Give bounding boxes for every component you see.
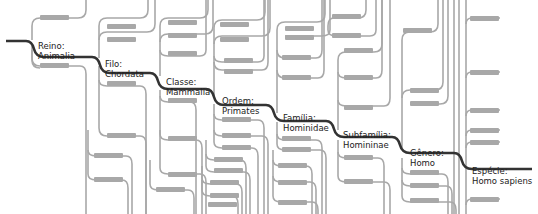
node-rank: Gênero:: [410, 148, 444, 158]
placeholder-label: [344, 179, 373, 184]
placeholder-label: [285, 35, 314, 40]
node-rank: Classe:: [166, 77, 210, 87]
placeholder-label: [168, 51, 197, 56]
node-subfamilia: Subfamília: Homininae: [343, 130, 391, 150]
placeholder-label: [470, 197, 499, 202]
placeholder-label: [282, 136, 311, 141]
node-taxon: Homo sapiens: [472, 176, 532, 186]
placeholder-label: [344, 48, 373, 53]
placeholder-label: [278, 200, 307, 205]
node-taxon: Animalia: [38, 51, 75, 61]
node-rank: Filo:: [105, 59, 144, 69]
placeholder-label: [168, 20, 197, 25]
main-path-line: [6, 41, 532, 169]
placeholder-label: [168, 33, 197, 38]
placeholder-label: [40, 63, 69, 68]
placeholder-label: [344, 75, 373, 80]
placeholder-label: [214, 168, 243, 173]
node-familia: Família: Hominidae: [283, 113, 329, 133]
node-filo: Filo: Chordata: [105, 59, 144, 79]
node-rank: Reino:: [38, 41, 75, 51]
node-taxon: Mammalia: [166, 87, 210, 97]
node-ordem: Ordem: Primates: [222, 96, 259, 116]
node-rank: Ordem:: [222, 96, 259, 106]
placeholder-label: [107, 37, 136, 42]
placeholder-label: [107, 24, 136, 29]
node-taxon: Homo: [410, 158, 444, 168]
node-reino: Reino: Animalia: [38, 41, 75, 61]
placeholder-label: [332, 14, 361, 19]
placeholder-label: [208, 202, 237, 207]
placeholder-label: [344, 105, 373, 110]
placeholder-label: [107, 133, 136, 138]
placeholder-label: [220, 37, 249, 42]
placeholder-label: [222, 133, 251, 138]
placeholder-label: [282, 147, 311, 152]
placeholder-label: [470, 128, 499, 133]
placeholder-label: [470, 70, 499, 75]
node-taxon: Homininae: [343, 140, 391, 150]
node-genero: Gênero: Homo: [410, 148, 444, 168]
placeholder-label: [285, 26, 314, 31]
placeholder-label: [40, 15, 69, 20]
placeholder-label: [224, 69, 253, 74]
placeholder-label: [332, 33, 361, 38]
node-taxon: Chordata: [105, 69, 144, 79]
placeholder-label: [278, 163, 307, 168]
placeholder-label: [222, 117, 251, 122]
placeholder-label: [156, 187, 185, 192]
placeholder-label: [94, 177, 123, 182]
placeholder-label: [470, 108, 499, 113]
placeholder-label: [410, 101, 439, 106]
placeholder-label: [214, 157, 243, 162]
placeholder-label: [470, 16, 499, 21]
node-rank: Família:: [283, 113, 329, 123]
placeholder-label: [210, 180, 239, 185]
placeholder-label: [224, 58, 253, 63]
placeholder-label: [403, 28, 432, 33]
placeholder-label: [410, 183, 439, 188]
placeholder-label: [410, 198, 439, 203]
placeholder-label: [220, 22, 249, 27]
placeholder-label: [278, 180, 307, 185]
node-taxon: Hominidae: [283, 123, 329, 133]
placeholder-label: [282, 55, 311, 60]
placeholder-label: [282, 75, 311, 80]
placeholder-label: [222, 145, 251, 150]
node-especie: Espécie: Homo sapiens: [472, 166, 532, 186]
placeholder-label: [344, 155, 373, 160]
taxonomy-tree: [0, 0, 538, 214]
node-rank: Espécie:: [472, 166, 532, 176]
placeholder-label: [410, 170, 439, 175]
placeholder-label: [470, 140, 499, 145]
placeholder-label: [168, 136, 197, 141]
placeholder-label: [410, 88, 439, 93]
placeholder-label: [107, 81, 136, 86]
node-classe: Classe: Mammalia: [166, 77, 210, 97]
placeholder-label: [168, 98, 197, 103]
node-taxon: Primates: [222, 106, 259, 116]
placeholder-label: [210, 193, 239, 198]
placeholder-label: [168, 172, 197, 177]
placeholder-label: [94, 153, 123, 158]
node-rank: Subfamília:: [343, 130, 391, 140]
